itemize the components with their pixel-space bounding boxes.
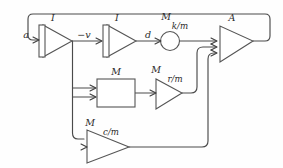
multiplier-r-coefficient: r/m [167, 74, 182, 84]
amplifier-a-triangle [220, 26, 253, 62]
integrator-1-input-bar [39, 25, 45, 57]
integrator-2-label: I [114, 12, 119, 23]
integrator-1-triangle [43, 25, 72, 57]
multiplier-c-coefficient: c/m [103, 127, 119, 137]
amplifier-a-label: A [228, 12, 236, 23]
multiplier-c-label: M [84, 117, 95, 128]
wire-c-to-amp [129, 53, 216, 147]
wire-v-trunk-down [73, 41, 85, 139]
signal-minus-v-label: −v [77, 29, 91, 40]
integrator-2-input-bar [103, 25, 109, 57]
block-diagram-canvas: I I M k/m A M M r/m M c/m a −v d [0, 0, 283, 168]
signal-d-label: d [145, 29, 151, 40]
multiplier-rect-label: M [110, 66, 121, 77]
integrator-1-label: I [50, 12, 55, 23]
multiplier-k-circle [161, 32, 180, 51]
multiplier-rect-block [97, 79, 135, 107]
multiplier-r-label: M [150, 64, 161, 75]
block-diagram-svg: I I M k/m A M M r/m M c/m a −v d [0, 0, 283, 168]
multiplier-k-label: M [160, 11, 171, 22]
integrator-2-triangle [107, 25, 136, 57]
signal-a-label: a [23, 29, 29, 40]
multiplier-k-coefficient: k/m [172, 21, 188, 31]
arrowhead-into-multiplier-c [81, 144, 87, 150]
